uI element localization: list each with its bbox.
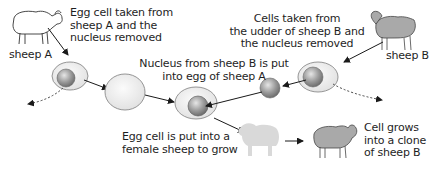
- label-sheep-b: sheep B: [386, 50, 429, 63]
- sheep-a-icon: [13, 11, 62, 44]
- label-cells-taken: Cells taken from the udder of sheep B an…: [222, 13, 372, 51]
- label-egg-taken: Egg cell taken from sheep A and the nucl…: [70, 7, 173, 45]
- dashed-arrow-nucleus-discarded-b: [333, 84, 382, 100]
- arrow-enucleated-to-fused: [145, 95, 174, 102]
- fused-egg-cell: [175, 87, 217, 119]
- label-nucleus-put: Nucleus from sheep B is put into egg of …: [134, 58, 294, 83]
- label-sheep-a: sheep A: [9, 49, 52, 62]
- label-clone: Cell grows into a clone of sheep B: [364, 122, 426, 160]
- udder-cell-sheep-b: [298, 62, 338, 92]
- surrogate-sheep-icon: [238, 123, 279, 156]
- clone-sheep-icon: [314, 125, 357, 158]
- cloning-diagram: sheep A Egg cell taken from sheep A and …: [0, 0, 436, 171]
- arrow-egg-to-enucleated: [84, 80, 108, 89]
- egg-cell-sheep-a: [52, 62, 88, 90]
- dashed-arrow-nucleus-discarded-a: [28, 88, 63, 104]
- label-egg-put: Egg cell is put into a female sheep to g…: [122, 131, 238, 156]
